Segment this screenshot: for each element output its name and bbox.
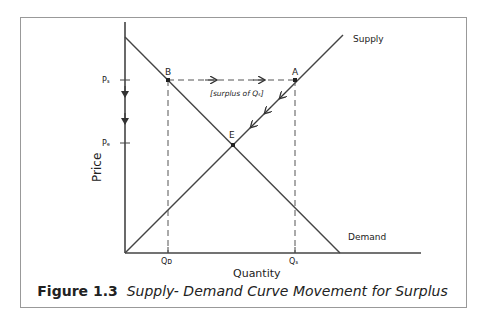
tick-label-q-demand: Qᴅ — [161, 257, 172, 266]
point-a-label: A — [292, 67, 299, 77]
supply-demand-diagram: B A E [surplus of Qₛ] Pₛ Pₑ Qᴅ Qₛ Supply… — [0, 0, 485, 325]
tick-label-p-equilibrium: Pₑ — [102, 139, 110, 148]
figure-frame — [21, 18, 467, 308]
x-axis-label: Quantity — [233, 267, 281, 280]
point-b-marker — [166, 78, 170, 82]
figure-number: Figure 1.3 — [37, 283, 117, 299]
point-e-marker — [231, 143, 235, 147]
supply-label: Supply — [353, 34, 384, 44]
point-b-label: B — [165, 67, 171, 77]
surplus-note: [surplus of Qₛ] — [210, 89, 264, 98]
tick-label-p-surplus: Pₛ — [102, 76, 110, 85]
figure-caption: Figure 1.3 Supply- Demand Curve Movement… — [0, 283, 485, 299]
y-axis-label: Price — [90, 153, 104, 182]
point-a-marker — [293, 78, 297, 82]
figure-title: Supply- Demand Curve Movement for Surplu… — [127, 283, 448, 299]
tick-label-q-supply: Qₛ — [289, 257, 298, 266]
demand-label: Demand — [348, 232, 386, 242]
point-e-label: E — [229, 130, 235, 140]
